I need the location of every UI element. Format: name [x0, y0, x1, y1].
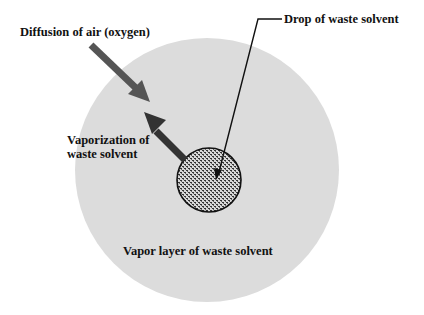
diagram-canvas: Diffusion of air (oxygen) Drop of waste … — [0, 0, 424, 315]
label-vapor-layer: Vapor layer of waste solvent — [123, 244, 273, 258]
diagram-graphics — [0, 0, 424, 315]
label-vaporization-line1: Vaporization of — [67, 133, 150, 147]
label-diffusion-of-air: Diffusion of air (oxygen) — [20, 25, 150, 39]
label-vaporization-line2: waste solvent — [67, 147, 137, 161]
label-drop-of-waste-solvent: Drop of waste solvent — [284, 12, 399, 26]
